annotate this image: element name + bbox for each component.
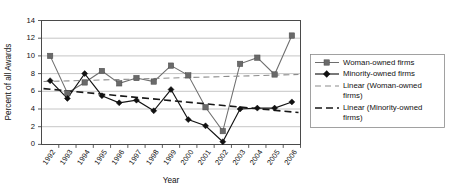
legend-label-linear-woman-owned-l2: firms) xyxy=(343,91,363,100)
x-tick-label-2000: 2000 xyxy=(179,148,196,167)
y-tick-label-2: 2 xyxy=(31,122,35,131)
y-axis-title: Percent of all Awards xyxy=(4,44,13,121)
legend-label-minority-owned: Minority-owned firms xyxy=(343,69,415,78)
data-point-woman-1994 xyxy=(82,80,87,85)
x-tick-label-1998: 1998 xyxy=(144,148,161,167)
data-point-woman-1998 xyxy=(151,79,156,84)
data-point-woman-2003 xyxy=(237,61,242,66)
y-tick-label-10: 10 xyxy=(27,51,35,60)
data-point-woman-1993 xyxy=(65,90,70,95)
gridlines xyxy=(42,21,301,127)
data-point-woman-1999 xyxy=(168,63,173,68)
y-tick-label-0: 0 xyxy=(31,139,35,148)
x-tick-label-2001: 2001 xyxy=(196,148,213,167)
data-point-woman-2001 xyxy=(203,105,208,110)
y-tick-label-6: 6 xyxy=(31,86,35,95)
x-tick-label-1994: 1994 xyxy=(75,148,92,167)
x-tick-label-1999: 1999 xyxy=(161,148,178,167)
data-point-minority-1996 xyxy=(116,100,122,106)
chart-svg: Percent of all Awards 0 2 4 6 xyxy=(0,0,450,189)
data-point-woman-2004 xyxy=(255,55,260,60)
data-point-minority-1997 xyxy=(133,97,139,103)
x-tick-label-2002: 2002 xyxy=(213,148,230,167)
plot-area-border xyxy=(42,21,301,145)
data-point-woman-2006 xyxy=(289,33,294,38)
data-point-woman-1995 xyxy=(99,68,104,73)
series-markers-woman-owned xyxy=(47,33,294,134)
y-tick-label-12: 12 xyxy=(27,33,35,42)
x-tick-label-2004: 2004 xyxy=(248,148,265,167)
data-point-minority-2004 xyxy=(254,105,260,111)
y-tick-label-14: 14 xyxy=(27,16,35,25)
chart-container: Percent of all Awards 0 2 4 6 xyxy=(0,0,450,189)
legend-label-linear-woman-owned-l1: Linear (Woman-owned xyxy=(343,81,422,90)
data-point-woman-2005 xyxy=(272,72,277,77)
data-point-woman-1992 xyxy=(47,53,52,58)
x-tick-label-2005: 2005 xyxy=(265,148,282,167)
legend-label-woman-owned: Woman-owned firms xyxy=(343,58,414,67)
x-tick-label-1992: 1992 xyxy=(40,148,57,167)
x-axis-labels: 1992199319941995199619971998199920002001… xyxy=(40,148,299,167)
data-point-woman-1997 xyxy=(134,75,139,80)
x-tick-label-2003: 2003 xyxy=(230,148,247,167)
data-point-minority-2000 xyxy=(185,117,191,123)
chart-legend: Woman-owned firms Minority-owned firms L… xyxy=(311,55,445,128)
x-tick-label-1996: 1996 xyxy=(110,148,127,167)
y-tick-label-8: 8 xyxy=(31,69,35,78)
legend-label-linear-minority-owned-l2: firms) xyxy=(343,113,363,122)
x-axis-title: Year xyxy=(163,176,180,185)
x-tick-label-1995: 1995 xyxy=(92,148,109,167)
data-point-woman-2000 xyxy=(186,73,191,78)
x-tick-label-1993: 1993 xyxy=(58,148,75,167)
x-tick-label-1997: 1997 xyxy=(127,148,144,167)
y-tick-label-4: 4 xyxy=(31,104,35,113)
data-point-woman-2002 xyxy=(220,128,225,133)
y-axis: 0 2 4 6 8 10 12 14 xyxy=(27,16,42,149)
legend-label-linear-minority-owned-l1: Linear (Minority-owned xyxy=(343,103,422,112)
data-point-minority-2006 xyxy=(289,99,295,105)
x-tick-label-2006: 2006 xyxy=(282,148,299,167)
legend-square-marker-icon xyxy=(324,60,329,65)
data-point-woman-1996 xyxy=(117,81,122,86)
